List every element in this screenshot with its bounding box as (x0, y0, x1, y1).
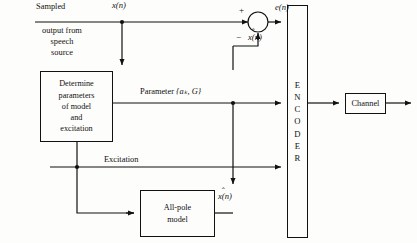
all-pole-model-block: All-pole model (140, 190, 215, 237)
parameter-word: Parameter (140, 87, 174, 96)
sampled-label: Sampled (36, 2, 65, 11)
xhat-output-label: ˆ x(n) (218, 192, 232, 202)
all-pole-model-label: All-pole model (164, 202, 191, 225)
hat-accent-bottom: ˆ (218, 188, 229, 196)
diagram-canvas: Determine parameters of model and excita… (0, 0, 417, 243)
channel-label: Channel (352, 99, 380, 108)
encoder-label: E N C O D E R (294, 79, 301, 164)
speech-source-label: output fromspeechsource (26, 26, 98, 59)
xhat-feedback-label: ˆ x(n) (248, 33, 262, 43)
determine-parameters-block: Determine parameters of model and excita… (40, 71, 113, 142)
minus-sign-label: − (236, 32, 241, 42)
plus-sign-label: + (239, 5, 244, 15)
encoder-block: E N C O D E R (287, 5, 308, 238)
channel-block: Channel (345, 93, 386, 114)
error-signal-label: e(n) (275, 3, 289, 13)
parameter-label: Parameter {aₖ, G} (140, 87, 201, 96)
determine-parameters-label: Determine parameters of model and excita… (59, 78, 95, 135)
hat-accent-top: ˆ (248, 29, 259, 37)
wire-excitation-elbow (77, 167, 134, 213)
parameter-set: {aₖ, G} (176, 87, 201, 96)
excitation-label: Excitation (104, 155, 138, 164)
input-signal-label: x(n) (112, 1, 126, 11)
